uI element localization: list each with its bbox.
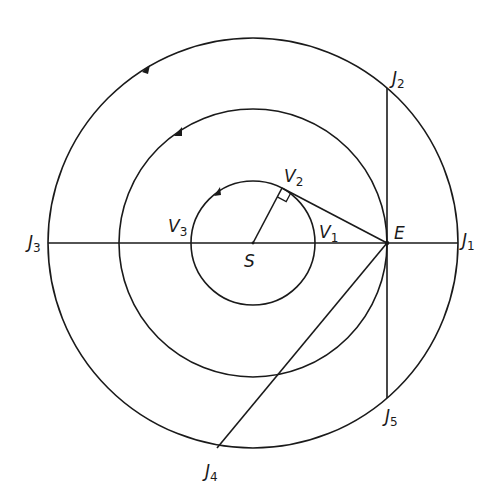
label-e: E (394, 225, 405, 242)
label-j5-sub: 5 (390, 415, 398, 429)
label-e-text: E (394, 223, 405, 243)
earth-point (385, 241, 389, 245)
label-v1: V1 (319, 224, 338, 244)
label-j4-sub: 4 (210, 470, 218, 484)
label-v3: V3 (168, 218, 187, 238)
label-j3-sub: 3 (33, 241, 41, 255)
label-v2: V2 (284, 168, 303, 188)
label-j2-sub: 2 (397, 77, 405, 91)
label-v3-main: V (168, 216, 180, 236)
label-v1-sub: 1 (331, 231, 339, 245)
label-v3-sub: 3 (180, 225, 188, 239)
sun-point (252, 242, 255, 245)
direction-arrow-icon (214, 187, 221, 196)
label-j1-sub: 1 (467, 239, 475, 253)
label-v1-main: V (319, 222, 331, 242)
label-j2: J2 (392, 70, 405, 90)
label-j3: J3 (28, 234, 41, 254)
label-j4: J4 (205, 463, 218, 483)
line-s-v2-radius (253, 188, 282, 243)
label-v2-sub: 2 (296, 175, 304, 189)
label-v2-main: V (284, 166, 296, 186)
label-s-text: S (244, 251, 255, 271)
label-s: S (244, 253, 255, 270)
label-j1: J1 (462, 232, 475, 252)
label-j5: J5 (385, 408, 398, 428)
